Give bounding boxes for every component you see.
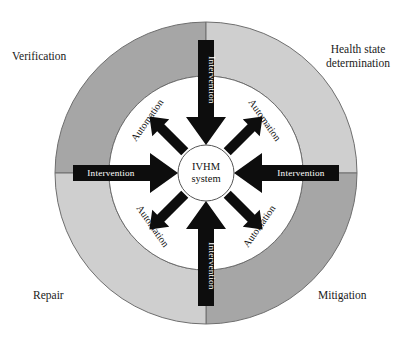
ivhm-core-line2: system: [191, 173, 220, 184]
ivhm-core: IVHM system: [178, 145, 234, 201]
intervention-arrow-bottom-label: Intervention: [207, 242, 217, 290]
ivhm-cycle-diagram: Automation Automation Automation Automat…: [0, 0, 411, 343]
outer-label-health-state-determination: Health state determination: [310, 42, 406, 71]
intervention-arrow-top-label: Intervention: [207, 56, 217, 104]
intervention-arrow-left-label: Intervention: [87, 168, 135, 178]
outer-label-mitigation: Mitigation: [318, 288, 402, 302]
outer-label-repair: Repair: [33, 288, 103, 302]
intervention-arrow-right-label: Intervention: [277, 168, 325, 178]
ivhm-core-line1: IVHM: [192, 161, 221, 172]
outer-label-verification: Verification: [12, 49, 102, 63]
